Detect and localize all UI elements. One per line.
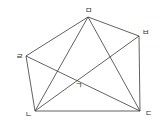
edge-r-m (26, 17, 88, 56)
edge-r-n (26, 56, 35, 111)
edge-m-b (88, 17, 139, 36)
edge-b-d (139, 36, 140, 111)
label-interior-g: ㄱ (75, 81, 82, 90)
label-vertex-r: ㄹ (16, 52, 23, 61)
geometry-diagram: ㅁ ㅂ ㄹ ㄴ ㄷ ㄱ (0, 0, 162, 121)
edges (26, 17, 140, 111)
edge-n-b (35, 36, 139, 111)
edge-r-d (26, 56, 140, 111)
edge-m-d (88, 17, 140, 111)
label-vertex-d: ㄷ (145, 109, 152, 118)
labels: ㅁ ㅂ ㄹ ㄴ ㄷ ㄱ (16, 6, 152, 119)
label-vertex-n: ㄴ (25, 110, 32, 119)
label-vertex-m: ㅁ (85, 6, 92, 15)
label-vertex-b: ㅂ (142, 28, 149, 37)
